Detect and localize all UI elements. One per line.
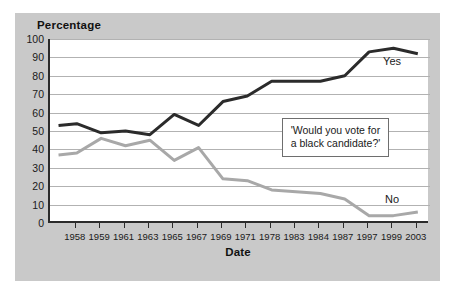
y-axis-tick-label: 10 — [18, 200, 44, 210]
y-axis-tick-label: 50 — [18, 126, 44, 136]
x-axis-tick-mark — [221, 223, 222, 228]
x-axis-tick-mark — [124, 223, 125, 228]
y-axis-tick-labels: 0102030405060708090100 — [18, 39, 44, 223]
y-axis-tick-label: 70 — [18, 89, 44, 99]
series-label-no: No — [385, 193, 399, 205]
x-axis-tick-label: 1961 — [113, 231, 134, 242]
x-axis-title: Date — [48, 246, 428, 258]
y-axis-title: Percentage — [37, 19, 101, 31]
x-axis-tick-label: 1969 — [210, 231, 231, 242]
x-axis-tick-mark — [197, 223, 198, 228]
y-axis-tick-label: 30 — [18, 163, 44, 173]
x-axis-tick-label: 1959 — [89, 231, 110, 242]
annotation-line-2: a black candidate?' — [291, 137, 381, 150]
annotation-box: 'Would you vote for a black candidate?' — [282, 118, 390, 157]
x-axis-tick-label: 1987 — [332, 231, 353, 242]
x-axis-tick-mark — [270, 223, 271, 228]
y-axis-tick-label: 40 — [18, 144, 44, 154]
chart-figure: Percentage 0102030405060708090100 195819… — [15, 13, 440, 281]
x-axis-tick-label: 1999 — [381, 231, 402, 242]
x-axis-tick-label: 1963 — [137, 231, 158, 242]
y-axis-tick-label: 100 — [18, 34, 44, 44]
x-axis-tick-mark — [245, 223, 246, 228]
x-axis-tick-label: 1967 — [186, 231, 207, 242]
y-axis-tick-label: 60 — [18, 108, 44, 118]
x-axis-tick-mark — [343, 223, 344, 228]
annotation-line-1: 'Would you vote for — [291, 124, 381, 137]
x-axis-tick-mark — [148, 223, 149, 228]
x-axis-tick-mark — [99, 223, 100, 228]
x-axis-tick-label: 1965 — [162, 231, 183, 242]
x-axis-tick-mark — [294, 223, 295, 228]
series-label-yes: Yes — [383, 55, 401, 67]
x-axis-tick-label: 1971 — [235, 231, 256, 242]
plot-wrapper: 0102030405060708090100 19581959196119631… — [48, 39, 428, 223]
x-axis-tick-label: 2003 — [405, 231, 426, 242]
y-axis-tick-label: 80 — [18, 71, 44, 81]
x-axis-tick-mark — [391, 223, 392, 228]
y-axis-tick-label: 20 — [18, 181, 44, 191]
x-axis-tick-mark — [318, 223, 319, 228]
y-axis-tick-label: 0 — [18, 218, 44, 228]
x-axis-tick-label: 1978 — [259, 231, 280, 242]
x-axis-tick-label: 1984 — [308, 231, 329, 242]
y-axis-tick-label: 90 — [18, 52, 44, 62]
x-axis-tick-label: 1958 — [64, 231, 85, 242]
x-axis-tick-mark — [172, 223, 173, 228]
x-axis-tick-mark — [416, 223, 417, 228]
x-axis-tick-mark — [367, 223, 368, 228]
x-axis-tick-label: 1983 — [283, 231, 304, 242]
x-axis-tick-label: 1997 — [357, 231, 378, 242]
x-axis-tick-mark — [75, 223, 76, 228]
